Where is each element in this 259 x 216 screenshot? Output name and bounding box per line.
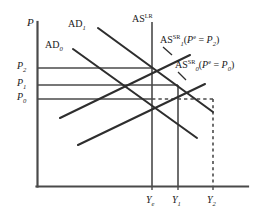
curve-label-AD-1: AD1: [68, 19, 86, 32]
y-axis-label: P: [27, 17, 34, 28]
leader-AS-SR-1: [163, 47, 172, 55]
output-tick-Y1-sub: 1: [178, 200, 181, 207]
curve-label-AD-1-sub: 1: [82, 24, 85, 31]
curve-label-AS-SR-0: ASSR0(Pe = P0): [175, 59, 234, 73]
curve-label-AS-SR-0-note-close: ): [231, 59, 234, 70]
leader-AS-SR-0: [178, 72, 186, 80]
curve-label-AD-0-sub: 0: [59, 45, 62, 52]
price-tick-P0-sub: 0: [23, 97, 26, 104]
curve-label-AS-SR-1-note-eq: =: [196, 34, 207, 45]
as-ad-diagram-figure: P P2 P1 P0 Ye Y1 Y2 ASLR ASSR1(Pe = P2) …: [0, 0, 259, 216]
curve-label-AS-LR-base: AS: [132, 13, 145, 24]
price-tick-P1-sub: 1: [23, 83, 26, 90]
curve-label-AS-LR-sup: LR: [145, 12, 153, 19]
diagram-canvas: [0, 0, 259, 216]
output-tick-Y1: Y1: [172, 195, 181, 208]
curve-label-AD-0: AD0: [45, 40, 63, 53]
output-tick-Y2: Y2: [207, 195, 216, 208]
curve-label-AS-SR-0-sup: SR: [188, 58, 196, 65]
price-tick-P0: P0: [17, 92, 26, 105]
price-tick-P2-sub: 2: [23, 66, 26, 73]
curve-label-AD-0-base: AD: [45, 39, 59, 50]
curve-label-AD-1-base: AD: [68, 18, 82, 29]
price-tick-P2: P2: [17, 61, 26, 74]
output-tick-Ye-sub: e: [152, 200, 155, 207]
price-tick-P1: P1: [17, 78, 26, 91]
curve-label-AS-SR-1-base: AS: [160, 34, 173, 45]
curve-label-AS-SR-0-base: AS: [175, 59, 188, 70]
curve-label-AS-SR-1: ASSR1(Pe = P2): [160, 34, 219, 48]
curve-label-AS-LR: ASLR: [132, 13, 153, 24]
output-tick-Ye: Ye: [146, 195, 155, 208]
output-tick-Y2-sub: 2: [213, 200, 216, 207]
curve-label-AS-SR-0-note-eq: =: [211, 59, 222, 70]
curve-label-AS-SR-1-sup: SR: [173, 33, 181, 40]
curve-label-AS-SR-1-note-close: ): [216, 34, 219, 45]
